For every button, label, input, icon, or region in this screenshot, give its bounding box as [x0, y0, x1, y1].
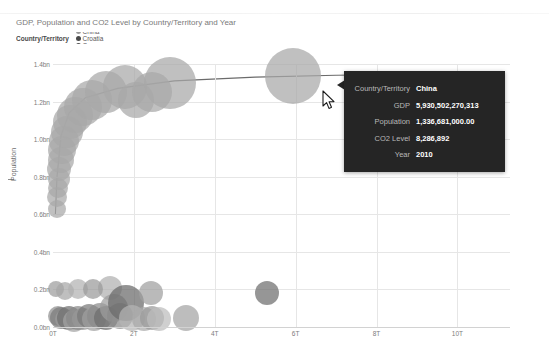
legend-item-label: Croatia: [82, 35, 103, 42]
chart-bubble[interactable]: [139, 281, 163, 305]
legend-swatch-icon: [76, 36, 81, 41]
tooltip-key: Country/Territory: [350, 85, 416, 93]
ghost-header-text: [150, 0, 410, 10]
tooltip-key: GDP: [350, 102, 416, 110]
x-tick-label: 0T: [49, 330, 57, 337]
page-top-artifact: [0, 0, 549, 14]
mouse-cursor-icon: [322, 90, 336, 110]
y-tick-label: 0.4bn: [34, 248, 50, 255]
tooltip-value: 8,286,892: [416, 135, 449, 143]
tooltip-row: Population1,336,681,000.00: [350, 118, 497, 126]
tooltip-value: 1,336,681,000.00: [416, 118, 474, 126]
tooltip-value: 2010: [416, 151, 433, 159]
gridline-horizontal: [53, 177, 510, 178]
y-tick-label: 1.2bn: [34, 98, 50, 105]
tooltip-row: Country/TerritoryChina: [350, 85, 497, 93]
chart-title: GDP, Population and CO2 Level by Country…: [16, 18, 236, 27]
y-tick-label: 1.0bn: [34, 136, 50, 143]
y-axis-ticks: 0.0bn0.2bn0.4bn0.6bn0.8bn1.0bn1.2bn1.4bn: [20, 46, 50, 327]
tooltip-row: CO2 Level8,286,892: [350, 135, 497, 143]
x-tick-label: 6T: [292, 330, 300, 337]
tooltip-row: Year2010: [350, 151, 497, 159]
x-tick-label: 4T: [211, 330, 219, 337]
tooltip-row: GDP5,930,502,270,313: [350, 102, 497, 110]
legend-title: Country/Territory: [16, 35, 69, 42]
legend-swatch-icon: [76, 32, 81, 34]
x-tick-label: 10T: [452, 330, 463, 337]
y-tick-label: 0.0bn: [34, 324, 50, 331]
tooltip-value: 5,930,502,270,313: [416, 102, 479, 110]
y-tick-label: 1.4bn: [34, 61, 50, 68]
tooltip-key: Population: [350, 118, 416, 126]
chart-tooltip: Country/TerritoryChinaGDP5,930,502,270,3…: [344, 71, 505, 172]
tooltip-key: Year: [350, 151, 416, 159]
chart-legend[interactable]: Country/Territory ArgentinaAustraliaAust…: [16, 32, 549, 44]
tooltip-value: China: [416, 85, 437, 93]
y-axis-label: Population: [10, 148, 17, 181]
x-tick-label: 2T: [130, 330, 138, 337]
legend-swatch-icon: [76, 43, 81, 45]
chart-bubble[interactable]: [265, 48, 321, 104]
chart-card: GDP, Population and CO2 Level by Country…: [0, 14, 549, 343]
tooltip-key: CO2 Level: [350, 135, 416, 143]
legend-item-label: Cyprus: [82, 42, 103, 45]
gridline-horizontal: [53, 252, 510, 253]
chart-bubble[interactable]: [83, 279, 103, 299]
x-axis-line: [53, 327, 510, 328]
gridline-horizontal: [53, 214, 510, 215]
legend-item-croatia[interactable]: Croatia: [76, 35, 128, 42]
chart-bubble[interactable]: [255, 281, 279, 305]
chart-bubble[interactable]: [144, 57, 196, 109]
legend-item-cyprus[interactable]: Cyprus: [76, 42, 128, 45]
gridline-vertical: [215, 64, 216, 327]
x-tick-label: 8T: [373, 330, 381, 337]
